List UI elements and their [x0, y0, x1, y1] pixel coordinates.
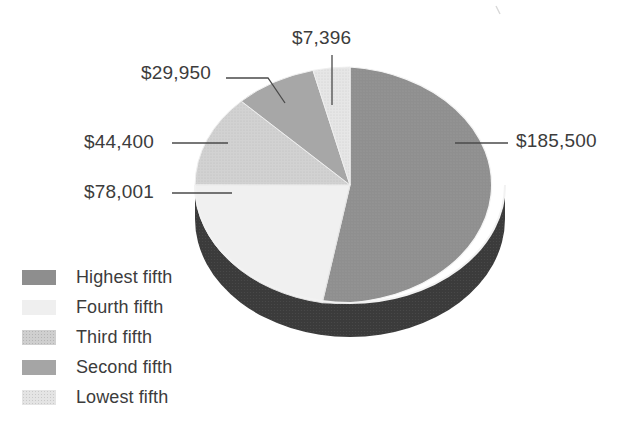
legend-swatch-fourth-fifth [22, 300, 56, 315]
legend-item-second-fifth: Second fifth [22, 352, 252, 382]
legend-label-fourth-fifth: Fourth fifth [76, 297, 163, 318]
legend-item-third-fifth: Third fifth [22, 322, 252, 352]
legend-item-fourth-fifth: Fourth fifth [22, 292, 252, 322]
legend-label-second-fifth: Second fifth [76, 357, 172, 378]
pie-chart-figure: $7,396 $29,950 $44,400 $78,001 $185,500 … [0, 0, 625, 427]
legend-swatch-third-fifth [22, 330, 56, 345]
legend-swatch-highest-fifth [22, 270, 56, 285]
legend-label-lowest-fifth: Lowest fifth [76, 387, 168, 408]
legend-item-lowest-fifth: Lowest fifth [22, 382, 252, 412]
value-label-fourth-fifth: $78,001 [84, 181, 154, 203]
chart-legend: Highest fifth Fourth fifth Third fifth S… [22, 262, 252, 412]
value-label-second-fifth: $29,950 [141, 62, 211, 84]
value-label-lowest-fifth: $7,396 [292, 27, 351, 49]
value-label-highest-fifth: $185,500 [516, 130, 597, 152]
legend-item-highest-fifth: Highest fifth [22, 262, 252, 292]
legend-swatch-lowest-fifth [22, 390, 56, 405]
scan-artifact-mark [496, 6, 500, 14]
legend-label-third-fifth: Third fifth [76, 327, 152, 348]
legend-label-highest-fifth: Highest fifth [76, 267, 172, 288]
value-label-third-fifth: $44,400 [84, 131, 154, 153]
legend-swatch-second-fifth [22, 360, 56, 375]
